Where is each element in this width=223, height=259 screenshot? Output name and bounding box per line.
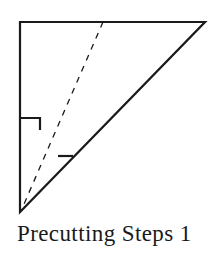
figure-caption: Precutting Steps 1 (17, 221, 217, 247)
triangle-outline (20, 22, 205, 212)
dashed-fold-line (21, 22, 103, 211)
right-angle-marker-left (20, 118, 40, 130)
